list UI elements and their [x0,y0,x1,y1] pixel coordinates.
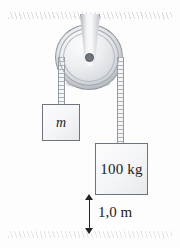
mass-100kg-label: 100 kg [100,161,142,178]
mass-m-label: m [56,115,66,131]
dimension-label: 1,0 m [98,204,132,221]
dimension-arrowhead-top [85,194,93,200]
physics-diagram-pulley: m 100 kg 1,0 m [0,0,180,248]
rope-right [117,57,124,143]
mass-m-block: m [42,104,80,141]
mass-100kg-block: 100 kg [95,143,148,195]
pulley-hub-axle [85,53,94,62]
dimension-arrowhead-bottom [85,228,93,234]
